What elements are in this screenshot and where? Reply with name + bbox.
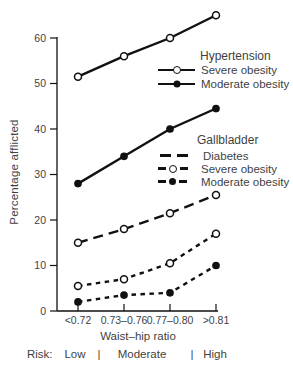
risk-label: Risk: — [27, 347, 53, 361]
legend-hypertension-header: Hypertension — [200, 49, 289, 63]
data-point-hypertension-severe-obesity — [121, 53, 128, 60]
x-tick-label: >0.81 — [203, 314, 230, 326]
data-point-gallbladder-severe-obesity — [121, 276, 128, 283]
y-tick-label: 10 — [34, 259, 46, 271]
chart-figure: 0102030405060<0.720.73–0.760.77–0.80>0.8… — [0, 0, 293, 376]
data-point-hypertension-moderate-obesity — [167, 126, 173, 132]
legend-label: Moderate obesity — [201, 176, 289, 188]
solid-line-filled-circle-icon — [158, 83, 196, 86]
solid-line-open-circle-icon — [158, 69, 196, 72]
risk-separator: | — [98, 347, 101, 361]
y-tick-label: 50 — [34, 77, 46, 89]
data-point-gallbladder-severe-obesity — [167, 260, 174, 267]
data-point-gallbladder-severe-obesity — [213, 230, 220, 237]
risk-zone-low: Low — [64, 347, 85, 361]
y-axis-title: Percentage afflicted — [8, 119, 20, 224]
y-tick-label: 60 — [34, 32, 46, 44]
data-point-hypertension-moderate-obesity — [121, 153, 127, 159]
data-point-hypertension-severe-obesity — [167, 35, 174, 42]
legend-label: Diabetes — [203, 150, 248, 162]
y-tick-label: 20 — [34, 214, 46, 226]
data-point-gallbladder-diabetes — [167, 210, 174, 217]
data-point-hypertension-severe-obesity — [75, 73, 82, 80]
y-tick-label: 30 — [34, 168, 46, 180]
series-line-gallbladder-severe-obesity — [78, 234, 216, 286]
data-point-gallbladder-moderate-obesity — [75, 299, 81, 305]
legend-item-hypertension-moderate: Moderate obesity — [158, 77, 289, 91]
long-dash-line-icon — [160, 154, 198, 157]
y-tick-label: 0 — [40, 305, 46, 317]
data-point-hypertension-severe-obesity — [213, 12, 220, 19]
legend-item-gallbladder-moderate: Moderate obesity — [158, 175, 289, 188]
data-point-gallbladder-diabetes — [121, 226, 128, 233]
x-tick-label: <0.72 — [65, 314, 92, 326]
series-line-gallbladder-diabetes — [78, 195, 216, 243]
data-point-hypertension-moderate-obesity — [75, 181, 81, 187]
data-point-gallbladder-moderate-obesity — [121, 292, 127, 298]
y-tick-label: 40 — [34, 123, 46, 135]
legend-gallbladder-header: Gallbladder — [197, 133, 289, 147]
legend-label: Moderate obesity — [201, 78, 289, 90]
data-point-gallbladder-moderate-obesity — [167, 290, 173, 296]
risk-separator: | — [191, 347, 194, 361]
risk-zone-high: High — [203, 347, 227, 361]
data-point-gallbladder-diabetes — [213, 191, 220, 198]
legend-hypertension: Hypertension Severe obesity Moderate obe… — [158, 49, 289, 91]
x-tick-label: 0.73–0.76 — [101, 314, 148, 326]
data-point-gallbladder-severe-obesity — [75, 282, 82, 289]
legend-label: Severe obesity — [201, 64, 277, 76]
x-axis-title: Waist–hip ratio — [100, 330, 176, 342]
short-dash-open-circle-icon — [158, 165, 196, 173]
risk-zone-moderate: Moderate — [118, 347, 167, 361]
legend-item-diabetes: Diabetes — [158, 149, 289, 162]
legend-item-hypertension-severe: Severe obesity — [158, 63, 289, 77]
data-point-hypertension-moderate-obesity — [213, 105, 219, 111]
legend-gallbladder: Gallbladder Diabetes Severe obesity Mode… — [158, 133, 289, 188]
legend-label: Severe obesity — [201, 163, 277, 175]
short-dash-filled-circle-icon — [158, 178, 196, 185]
data-point-gallbladder-moderate-obesity — [213, 262, 219, 268]
legend-item-gallbladder-severe: Severe obesity — [158, 162, 289, 175]
data-point-gallbladder-diabetes — [75, 239, 82, 246]
x-tick-label: 0.77–0.80 — [147, 314, 194, 326]
